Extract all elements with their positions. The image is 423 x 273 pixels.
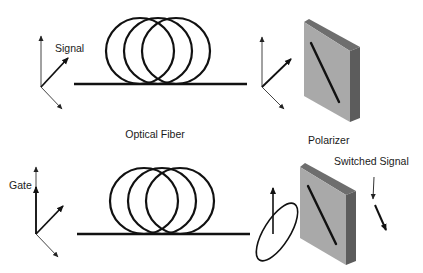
switched-signal-label: Switched Signal — [334, 155, 409, 167]
optical-fiber-top — [74, 18, 247, 84]
fiber-loop — [142, 18, 210, 84]
signal-axis-diagonal — [41, 87, 62, 109]
polarizer-label: Polarizer — [308, 134, 350, 146]
optical-fiber-bottom — [77, 168, 250, 234]
signal-polarization-arrow — [41, 58, 68, 87]
switched-signal-pointer — [373, 177, 374, 199]
polarizer-front-face — [304, 22, 350, 122]
polarizer-side-face — [346, 191, 356, 265]
fiber-loop — [124, 18, 192, 84]
gate-axis-bold-diagonal — [36, 206, 63, 234]
gate-axes — [36, 167, 63, 257]
gate-label: Gate — [9, 179, 32, 191]
fiber-loop — [106, 18, 174, 84]
switched-signal-arrow — [375, 205, 386, 230]
polarizer-side-face — [350, 47, 360, 122]
polarizer-top — [304, 19, 360, 122]
elliptical-polarization — [248, 188, 305, 267]
output-axes-top — [262, 37, 291, 109]
signal-label: Signal — [55, 42, 84, 54]
optical-fiber-label: Optical Fiber — [125, 128, 185, 140]
fiber-loop — [128, 168, 196, 234]
fiber-loop — [110, 168, 178, 234]
output-polarization-arrow — [262, 59, 291, 87]
output-axis-diagonal — [262, 87, 284, 109]
polarizer-bottom — [300, 163, 356, 265]
fiber-loop — [146, 168, 214, 234]
diagram-canvas: Signal Optical Fiber Polarizer Gate — [0, 0, 423, 273]
polarization-ellipse — [248, 197, 305, 267]
gate-axis-diagonal — [36, 234, 58, 257]
